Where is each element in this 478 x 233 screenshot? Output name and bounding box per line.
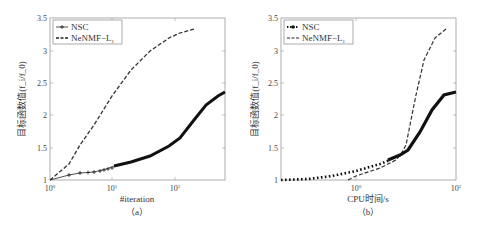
series-nenmf-a: [50, 29, 194, 180]
x-axis-label-b: CPU时间/s: [347, 193, 389, 204]
ytick: 1: [274, 176, 278, 185]
panel-b: 1 1.5 2 2.5 3 3.5 100 102 CPU时间/s （b） 目标…: [249, 14, 462, 217]
ytick: 2.5: [37, 79, 47, 88]
nsc-markers-a: [67, 166, 114, 177]
series-nsc-a: [50, 92, 225, 180]
x-axis-b: 100 102: [351, 184, 462, 193]
xtick: 101: [107, 184, 118, 193]
y-axis-label-b: 目标函数值(f_i/f_0): [249, 61, 260, 137]
figure: 1 1.5 2 2.5 3 3.5 100 101 102 #iteration…: [0, 0, 478, 233]
legend-a: NSC NeNMF−L1: [53, 20, 122, 44]
caption-b: （b）: [357, 207, 380, 217]
xtick: 100: [351, 184, 362, 193]
caption-a: （a）: [126, 207, 148, 217]
y-axis-label-a: 目标函数值(f_i/f_0): [16, 61, 27, 137]
ytick: 3.5: [37, 14, 47, 23]
ytick: 2.5: [268, 79, 278, 88]
ytick: 1.5: [37, 144, 47, 153]
xtick: 102: [451, 184, 462, 193]
ytick: 3: [274, 47, 278, 56]
ytick: 2: [43, 111, 47, 120]
ytick: 3.5: [268, 14, 278, 23]
ytick: 2: [274, 111, 278, 120]
legend-label-nenmf-b: NeNMF−L1: [302, 33, 346, 44]
x-axis-label-a: #iteration: [120, 194, 155, 204]
legend-label-nenmf-a: NeNMF−L1: [71, 33, 115, 44]
legend-label-nsc-a: NSC: [71, 22, 89, 32]
legend-label-nsc-b: NSC: [302, 22, 320, 32]
xtick: 102: [170, 184, 181, 193]
panel-a: 1 1.5 2 2.5 3 3.5 100 101 102 #iteration…: [16, 14, 225, 217]
xtick: 100: [45, 184, 56, 193]
legend-b: NSC NeNMF−L1: [284, 20, 353, 44]
ytick: 1.5: [268, 144, 278, 153]
x-axis-a: 100 101 102: [45, 184, 181, 193]
ytick: 3: [43, 47, 47, 56]
